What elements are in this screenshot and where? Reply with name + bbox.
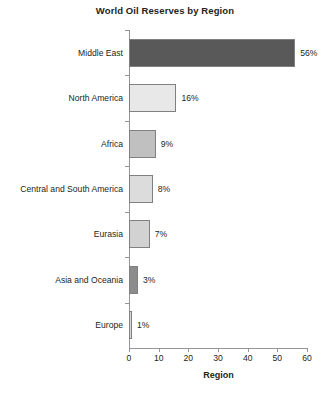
- plot-area: Middle East56%North America16%Africa9%Ce…: [129, 30, 307, 348]
- y-axis-tick: [125, 303, 129, 304]
- data-label: 1%: [137, 321, 149, 330]
- y-axis-tick: [125, 75, 129, 76]
- bar[interactable]: [129, 39, 295, 67]
- y-axis-tick: [125, 30, 129, 31]
- x-axis-tick-label: 50: [262, 353, 292, 363]
- bar[interactable]: [129, 220, 150, 248]
- category-label: Central and South America: [20, 185, 123, 194]
- category-label: Europe: [95, 321, 123, 330]
- x-axis-tick: [307, 348, 308, 352]
- bar-row: Asia and Oceania3%: [129, 266, 307, 294]
- chart-container: World Oil Reserves by Region Middle East…: [0, 0, 330, 393]
- x-axis-tick-label: 10: [144, 353, 174, 363]
- data-label: 3%: [143, 276, 155, 285]
- chart-title: World Oil Reserves by Region: [0, 5, 330, 16]
- x-axis-tick-label: 60: [292, 353, 322, 363]
- x-axis-tick-label: 20: [173, 353, 203, 363]
- category-label: Africa: [101, 140, 123, 149]
- x-axis-tick: [188, 348, 189, 352]
- data-label: 9%: [161, 140, 173, 149]
- data-label: 16%: [181, 94, 198, 103]
- bar-row: North America16%: [129, 84, 307, 112]
- category-label: North America: [69, 94, 123, 103]
- x-axis-tick-label: 0: [114, 353, 144, 363]
- bar[interactable]: [129, 175, 153, 203]
- category-label: Middle East: [78, 49, 123, 58]
- bar-row: Europe1%: [129, 311, 307, 339]
- x-axis-tick-label: 40: [233, 353, 263, 363]
- data-label: 7%: [155, 230, 167, 239]
- bar-row: Eurasia7%: [129, 220, 307, 248]
- bar[interactable]: [129, 84, 176, 112]
- x-axis-tick: [277, 348, 278, 352]
- x-axis-tick: [159, 348, 160, 352]
- y-axis-tick: [125, 166, 129, 167]
- x-axis-title: Region: [129, 370, 308, 380]
- x-axis-tick: [248, 348, 249, 352]
- bar-row: Central and South America8%: [129, 175, 307, 203]
- bar-row: Middle East56%: [129, 39, 307, 67]
- y-axis-tick: [125, 212, 129, 213]
- data-label: 8%: [158, 185, 170, 194]
- y-axis-tick: [125, 121, 129, 122]
- y-axis-tick: [125, 257, 129, 258]
- x-axis-tick: [218, 348, 219, 352]
- bar[interactable]: [129, 266, 138, 294]
- bar[interactable]: [129, 130, 156, 158]
- category-label: Asia and Oceania: [55, 276, 123, 285]
- category-label: Eurasia: [94, 230, 123, 239]
- x-axis-tick-label: 30: [203, 353, 233, 363]
- bar-row: Africa9%: [129, 130, 307, 158]
- data-label: 56%: [300, 49, 317, 58]
- bar[interactable]: [129, 311, 132, 339]
- x-axis-tick: [129, 348, 130, 352]
